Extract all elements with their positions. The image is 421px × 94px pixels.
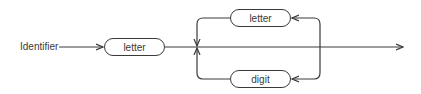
- rule-name-label: Identifier: [20, 41, 58, 53]
- diagram-lines: [0, 0, 421, 94]
- terminal-letter-loop: letter: [230, 9, 291, 27]
- syntax-diagram: Identifier letter letter digit: [0, 0, 421, 94]
- terminal-digit-loop: digit: [230, 70, 291, 88]
- terminal-letter-first: letter: [104, 38, 165, 56]
